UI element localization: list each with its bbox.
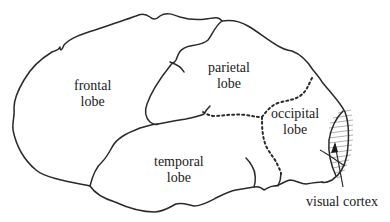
frontal-lobe-label-line2: lobe xyxy=(74,94,111,110)
temporal-lobe-label: temporal lobe xyxy=(154,154,204,186)
frontal-lobe-label-line1: frontal xyxy=(74,78,111,94)
central-sulcus-lower xyxy=(146,66,170,125)
preoccipital-notch xyxy=(246,158,255,187)
visual-cortex-label: visual cortex xyxy=(306,194,378,210)
parietal-lobe-label-line2: lobe xyxy=(208,76,250,92)
frontal-lobe-label: frontal lobe xyxy=(74,78,111,110)
parietal-lobe-label: parietal lobe xyxy=(208,60,250,92)
temporal-lobe-bottom xyxy=(90,180,322,212)
temporal-lobe-label-line1: temporal xyxy=(154,154,204,170)
visual-cortex-label-text: visual cortex xyxy=(306,194,378,209)
occipital-lobe-label-line2: lobe xyxy=(271,122,319,138)
temporal-lobe-label-line2: lobe xyxy=(154,170,204,186)
parietal-lobe-label-line1: parietal xyxy=(208,60,250,76)
parieto-temporal-dotted-line xyxy=(203,112,262,117)
central-sulcus-branch xyxy=(170,62,184,72)
occipital-lobe-label: occipital lobe xyxy=(271,106,319,138)
visual-cortex-hatch-lines xyxy=(329,110,353,178)
occipital-lobe-label-line1: occipital xyxy=(271,106,319,122)
brain-diagram xyxy=(0,0,390,222)
